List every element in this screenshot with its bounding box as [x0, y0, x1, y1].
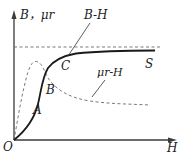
- origin-label: O: [3, 140, 13, 154]
- axes: [12, 10, 178, 143]
- mu-leader-line: [92, 80, 105, 97]
- bh-curve: [14, 51, 155, 141]
- mu-h-curve: [14, 61, 150, 140]
- y-axis-arrow-icon: [12, 10, 17, 19]
- magnetization-diagram: B，μr B-H μr-H A B C S O H: [0, 0, 182, 154]
- point-label-b: B: [45, 83, 55, 97]
- point-label-a: A: [32, 103, 42, 117]
- bh-curve-label: B-H: [83, 8, 108, 22]
- y-axis-label: B，μr: [19, 8, 56, 22]
- x-axis-label: H: [166, 141, 178, 154]
- point-label-s: S: [145, 57, 153, 71]
- mu-curve-label: μr-H: [97, 66, 123, 79]
- bh-leader-line: [68, 23, 90, 56]
- point-label-c: C: [61, 59, 70, 73]
